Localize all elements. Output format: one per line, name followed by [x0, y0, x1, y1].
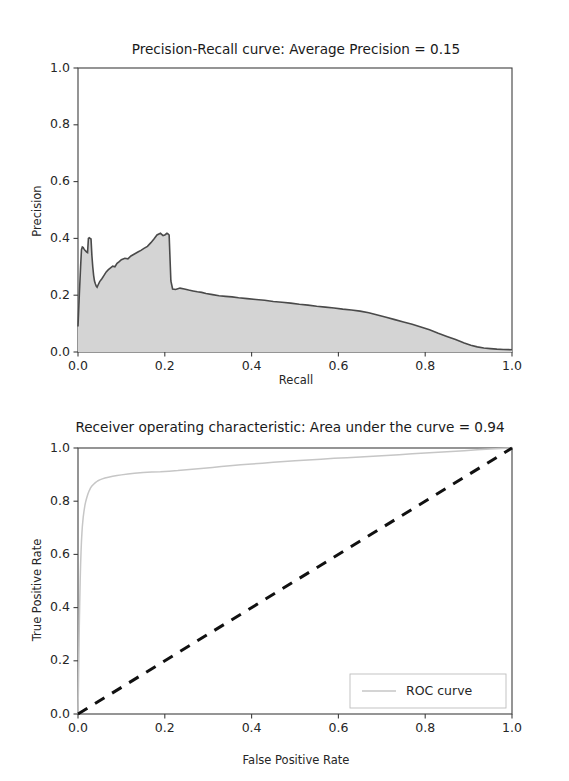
precision-recall-plot-area: 0.00.20.40.60.81.00.00.20.40.60.81.0 [50, 60, 522, 373]
precision-recall-chart: Precision-Recall curve: Average Precisio… [0, 0, 569, 400]
y-tick-label: 0.8 [50, 116, 70, 131]
roc-figure: Receiver operating characteristic: Area … [0, 400, 569, 781]
y-tick-label: 1.0 [50, 440, 70, 455]
precision-recall-figure: Precision-Recall curve: Average Precisio… [0, 0, 569, 400]
roc-chart: Receiver operating characteristic: Area … [0, 400, 569, 781]
y-tick-label: 0.0 [50, 706, 70, 721]
x-tick-label: 0.0 [68, 358, 88, 373]
x-tick-label: 1.0 [502, 358, 522, 373]
y-tick-label: 0.6 [50, 173, 70, 188]
y-tick-label: 0.2 [50, 287, 70, 302]
precision-recall-xlabel: Recall [279, 373, 313, 387]
x-tick-label: 1.0 [502, 720, 522, 735]
x-tick-label: 0.8 [415, 358, 435, 373]
legend-label: ROC curve [406, 683, 473, 698]
roc-ylabel: True Positive Rate [30, 539, 44, 642]
x-tick-label: 0.0 [68, 720, 88, 735]
y-tick-label: 0.4 [50, 599, 70, 614]
x-tick-label: 0.6 [328, 358, 348, 373]
x-tick-label: 0.4 [242, 720, 262, 735]
y-tick-label: 1.0 [50, 60, 70, 75]
x-tick-label: 0.2 [155, 358, 175, 373]
y-tick-label: 0.8 [50, 493, 70, 508]
roc-xlabel: False Positive Rate [243, 753, 350, 767]
x-tick-label: 0.2 [155, 720, 175, 735]
roc-title: Receiver operating characteristic: Area … [75, 419, 504, 435]
x-tick-label: 0.6 [328, 720, 348, 735]
y-tick-label: 0.6 [50, 546, 70, 561]
precision-recall-title: Precision-Recall curve: Average Precisio… [132, 41, 461, 57]
roc-plot-area: 0.00.20.40.60.81.00.00.20.40.60.81.0ROC … [50, 440, 522, 735]
x-tick-label: 0.8 [415, 720, 435, 735]
y-tick-label: 0.4 [50, 230, 70, 245]
y-tick-label: 0.0 [50, 344, 70, 359]
y-tick-label: 0.2 [50, 652, 70, 667]
legend: ROC curve [350, 674, 506, 708]
x-tick-label: 0.4 [242, 358, 262, 373]
precision-recall-ylabel: Precision [30, 185, 44, 236]
pr-area-fill [78, 233, 512, 352]
